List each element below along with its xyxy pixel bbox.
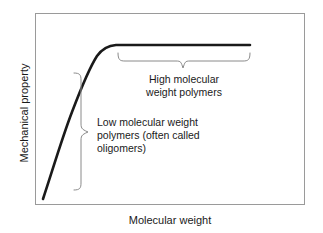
low-mw-annotation-line-3: oligomers) (97, 142, 225, 155)
chart-figure: Mechanical property Molecular weight Hig… (0, 0, 323, 233)
high-mw-annotation-line-2: weight polymers (118, 86, 250, 99)
low-mw-annotation: Low molecular weight polymers (often cal… (97, 116, 225, 155)
y-axis-label: Mechanical property (16, 17, 32, 209)
low-mw-annotation-line-2: polymers (often called (97, 129, 225, 142)
plot-frame (35, 13, 305, 205)
x-axis-label: Molecular weight (35, 213, 305, 227)
high-mw-annotation-line-1: High molecular (118, 73, 250, 86)
low-mw-annotation-line-1: Low molecular weight (97, 116, 225, 129)
high-mw-annotation: High molecular weight polymers (118, 73, 250, 99)
